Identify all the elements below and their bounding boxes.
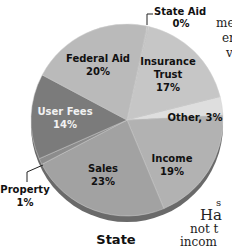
value-income: 19% (160, 166, 184, 177)
label-sales: Sales (88, 163, 118, 174)
body-text-line-7: incom (180, 235, 217, 248)
label-insurance-trust-2: Trust (154, 69, 183, 80)
label-income: Income (152, 153, 193, 164)
body-text-line-1: me (216, 16, 232, 30)
body-text-line-3: v (226, 46, 232, 60)
state-aid-leader-line (147, 14, 153, 25)
label-federal-aid: Federal Aid (66, 53, 130, 64)
value-property: 1% (17, 197, 34, 208)
chart-title: State (96, 232, 136, 247)
label-state-aid: State Aid (154, 6, 206, 17)
property-leader-line (27, 165, 43, 182)
value-state-aid: 0% (173, 18, 190, 29)
label-user-fees: User Fees (37, 106, 92, 117)
value-sales: 23% (91, 176, 115, 187)
label-other: Other, 3% (168, 112, 223, 123)
label-property: Property (0, 184, 50, 195)
body-text-line-2: er (222, 31, 232, 45)
value-federal-aid: 20% (86, 66, 110, 77)
label-insurance-trust: Insurance (140, 56, 196, 67)
value-user-fees: 14% (53, 119, 77, 130)
pie-chart: State Aid 0% Insurance Trust 17% Other, … (0, 0, 232, 248)
value-insurance-trust: 17% (156, 82, 180, 93)
body-text-line-6: not t (190, 222, 218, 236)
